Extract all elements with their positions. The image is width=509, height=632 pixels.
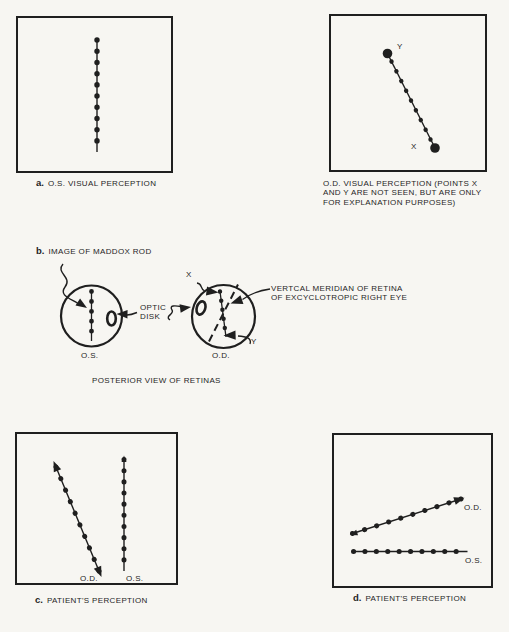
panel-d-caption: d.PATIENT'S PERCEPTION — [353, 593, 466, 603]
od-tilted-line-dots — [392, 62, 431, 140]
section-b-point-y-label: Y — [251, 337, 257, 346]
panel-od-caption-line-3: FOR EXPLANATION PURPOSES) — [323, 198, 482, 207]
optic-disk-leader-right — [168, 306, 181, 320]
figure-drawing — [0, 0, 509, 632]
panel-d-caption-letter: d. — [353, 592, 361, 603]
c-od-arrowhead-top — [50, 459, 61, 472]
panel-c-caption-text: PATIENT'S PERCEPTION — [47, 596, 148, 605]
panel-d-od-label: O.D. — [464, 503, 482, 512]
optic-disk-arrowhead-right — [180, 303, 192, 313]
posterior-view-label: POSTERIOR VIEW OF RETINAS — [92, 376, 221, 385]
panel-c-frame — [16, 433, 177, 584]
panel-od-caption-line-1: O.D. VISUAL PERCEPTION (POINTS X — [323, 179, 482, 188]
section-b-os-label: O.S. — [81, 351, 98, 360]
panel-d-caption-text: PATIENT'S PERCEPTION — [365, 594, 466, 603]
panel-a-caption-letter: a. — [36, 177, 44, 188]
section-b-caption: b.IMAGE OF MADDOX ROD — [36, 246, 152, 256]
panel-od-point-y-label: Y — [397, 42, 403, 51]
meridian-label-line-1: VERTCAL MERIDIAN OF RETINA — [271, 284, 407, 293]
panel-c-caption: c.PATIENT'S PERCEPTION — [35, 595, 148, 605]
optic-disk-label-line-1: OPTIC — [140, 303, 166, 312]
point-y-dot — [383, 49, 393, 59]
panel-a-caption-text: O.S. VISUAL PERCEPTION — [48, 179, 156, 188]
section-b-od-label: O.D. — [212, 351, 230, 360]
panel-c-od-label: O.D. — [80, 574, 98, 583]
maddox-rod-arrowhead — [75, 298, 89, 311]
panel-od-caption: O.D. VISUAL PERCEPTION (POINTS X AND Y A… — [323, 179, 482, 207]
panel-d-os-label: O.S. — [465, 556, 482, 565]
figure-page: a.O.S. VISUAL PERCEPTION Y X O.D. VISUAL… — [0, 0, 509, 632]
meridian-label-line-2: OF EXCYCLOTROPIC RIGHT EYE — [271, 293, 407, 302]
panel-a-drawing — [17, 17, 172, 172]
optic-disk-label-line-2: DISK — [140, 312, 166, 321]
c-od-tilted-line — [56, 467, 99, 571]
panel-a-caption: a.O.S. VISUAL PERCEPTION — [36, 178, 156, 188]
panel-od-drawing — [330, 15, 486, 171]
panel-c-caption-letter: c. — [35, 594, 43, 605]
panel-c-os-label: O.S. — [126, 574, 143, 583]
optic-disk-label: OPTIC DISK — [140, 303, 166, 322]
optic-disk-od — [195, 300, 207, 316]
point-x-leader — [197, 283, 205, 291]
meridian-label: VERTCAL MERIDIAN OF RETINA OF EXCYCLOTRO… — [271, 284, 407, 303]
section-b-caption-letter: b. — [36, 245, 44, 256]
d-od-tilted-line — [353, 499, 462, 534]
section-b-caption-text: IMAGE OF MADDOX ROD — [48, 247, 151, 256]
panel-c-drawing — [16, 433, 177, 584]
section-b-point-x-label: X — [186, 270, 192, 279]
panel-od-caption-line-2: AND Y ARE NOT SEEN, BUT ARE ONLY — [323, 188, 482, 197]
panel-od-point-x-label: X — [411, 142, 417, 151]
point-x-dot — [430, 143, 440, 153]
maddox-rod-leader — [61, 264, 78, 304]
optic-disk-os — [107, 312, 116, 326]
